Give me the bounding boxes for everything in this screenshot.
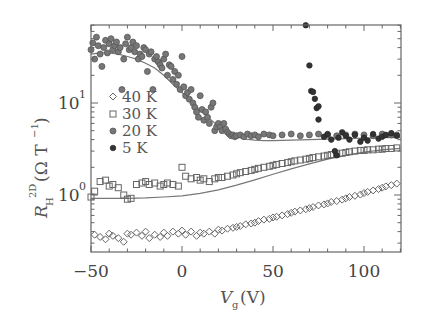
legend: 40 K 30 K 20 K 5 K xyxy=(110,88,158,157)
y-tick-1-exp: 0 xyxy=(79,180,86,193)
data-point xyxy=(204,114,210,120)
hall-resistance-chart: −50050100 10 1 10 0 R H 2D (Ω T −1 ) V g… xyxy=(0,0,427,323)
y-tick-label-10: 10 1 xyxy=(58,88,86,113)
data-point xyxy=(316,104,322,110)
data-point xyxy=(357,191,364,198)
data-point xyxy=(310,89,316,95)
data-point xyxy=(279,132,285,138)
data-point xyxy=(316,117,322,123)
data-point xyxy=(179,54,185,60)
data-point xyxy=(106,183,112,189)
data-point xyxy=(101,45,107,51)
series-40k xyxy=(91,180,400,245)
y-tick-1-base: 10 xyxy=(58,185,80,205)
data-point xyxy=(221,120,227,126)
y-label-unit: (Ω T xyxy=(31,144,51,182)
legend-item-30k: 30 K xyxy=(110,105,158,123)
data-point xyxy=(306,132,312,138)
y-label-sub: H xyxy=(44,197,55,206)
x-tick-label: −50 xyxy=(73,261,109,281)
data-point xyxy=(144,68,150,74)
y-label-main: R xyxy=(31,205,51,219)
data-point xyxy=(312,96,318,102)
data-point xyxy=(179,164,185,170)
y-label-unit-sup: −1 xyxy=(29,123,40,138)
data-point xyxy=(324,200,331,207)
y-label-close: ) xyxy=(31,117,51,124)
filled-circle-marker-icon xyxy=(110,145,116,151)
data-point xyxy=(195,114,201,120)
data-point xyxy=(361,190,368,197)
legend-item-40k: 40 K xyxy=(110,88,158,106)
legend-item-20k: 20 K xyxy=(110,122,158,140)
data-point xyxy=(394,133,400,139)
y-tick-10-exp: 1 xyxy=(79,88,86,101)
data-point xyxy=(334,153,340,159)
data-point xyxy=(124,230,131,237)
data-point xyxy=(193,232,200,239)
data-point xyxy=(121,56,127,62)
data-point xyxy=(288,131,294,137)
data-point xyxy=(336,135,342,141)
data-point xyxy=(113,39,119,45)
data-point xyxy=(307,63,313,69)
data-point xyxy=(255,134,261,140)
data-point xyxy=(161,182,167,188)
data-point xyxy=(379,184,386,191)
x-axis-label: V g (V) xyxy=(220,287,266,310)
data-point xyxy=(328,137,334,143)
data-point xyxy=(93,34,99,40)
y-axis-label: R H 2D (Ω T −1 ) xyxy=(27,117,55,219)
data-point xyxy=(92,188,98,194)
legend-item-5k: 5 K xyxy=(110,139,148,157)
data-point xyxy=(163,51,169,57)
data-point xyxy=(108,36,114,42)
y-label-sup: 2D xyxy=(27,184,38,198)
data-point xyxy=(99,63,105,69)
data-point xyxy=(120,238,127,245)
data-point xyxy=(346,194,353,201)
data-point xyxy=(123,41,129,47)
data-point xyxy=(174,81,180,87)
data-point xyxy=(117,45,123,51)
data-point xyxy=(164,72,170,78)
y-tick-label-1: 10 0 xyxy=(58,180,86,205)
data-point xyxy=(121,192,127,198)
data-point xyxy=(181,84,187,90)
data-point xyxy=(175,72,181,78)
data-point xyxy=(97,51,103,57)
x-label-sub: g xyxy=(232,299,239,310)
legend-label-20k: 20 K xyxy=(122,122,158,140)
legend-label-30k: 30 K xyxy=(122,105,158,123)
x-tick-label: 100 xyxy=(348,261,380,281)
data-point xyxy=(124,34,130,40)
data-point xyxy=(352,132,358,138)
data-point xyxy=(215,226,222,233)
data-point xyxy=(197,229,204,236)
data-point xyxy=(316,131,322,137)
data-point xyxy=(297,133,303,139)
data-point xyxy=(197,93,203,99)
data-point xyxy=(233,223,240,230)
data-point xyxy=(351,192,358,199)
data-point xyxy=(148,49,154,55)
data-point xyxy=(306,205,313,212)
x-tick-label: 50 xyxy=(262,261,284,281)
data-point xyxy=(159,65,165,71)
data-point xyxy=(270,133,276,139)
x-label-unit: (V) xyxy=(240,287,266,307)
data-point xyxy=(104,50,110,56)
legend-label-40k: 40 K xyxy=(122,88,158,106)
circle-dot-marker-icon xyxy=(110,128,116,134)
diamond-marker-icon xyxy=(110,93,117,100)
series-5k xyxy=(303,22,400,158)
data-point xyxy=(139,54,145,60)
data-point xyxy=(365,138,371,144)
data-point xyxy=(164,232,171,239)
square-marker-icon xyxy=(110,111,116,117)
x-tick-label: 0 xyxy=(177,261,188,281)
legend-label-5k: 5 K xyxy=(122,139,148,157)
x-tick-labels: −50050100 xyxy=(73,261,380,281)
data-point xyxy=(325,131,331,137)
data-point xyxy=(383,132,389,138)
